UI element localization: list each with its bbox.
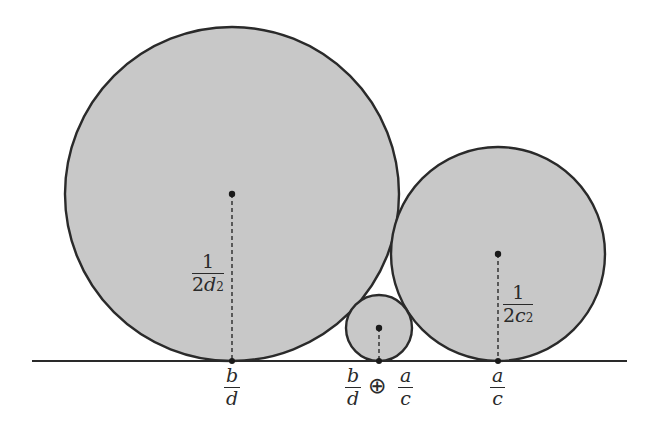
mediant-right-fraction: a c — [398, 366, 413, 408]
large-radius-numerator: 1 — [200, 252, 216, 271]
medium-radius-denominator: 2c2 — [503, 306, 533, 325]
large-center-dot — [229, 191, 235, 197]
large-base-numerator: b — [224, 366, 240, 385]
medium-base-numerator: a — [490, 366, 505, 385]
medium-center-dot — [495, 251, 501, 257]
small-center-dot — [376, 325, 382, 331]
oplus-operator-icon: ⊕ — [368, 375, 386, 397]
large-radius-denominator: 2d2 — [192, 275, 224, 294]
large-base-label: b d — [224, 366, 240, 408]
small-tangent-dot — [376, 358, 382, 364]
medium-base-label: a c — [490, 366, 505, 408]
medium-radius-numerator: 1 — [510, 283, 526, 302]
large-radius-label: 1 2d2 — [192, 252, 224, 294]
medium-radius-label: 1 2c2 — [503, 283, 533, 325]
ford-circles-diagram — [0, 0, 658, 427]
large-base-denominator: d — [224, 389, 240, 408]
mediant-left-fraction: b d — [345, 366, 361, 408]
medium-base-denominator: c — [490, 389, 505, 408]
